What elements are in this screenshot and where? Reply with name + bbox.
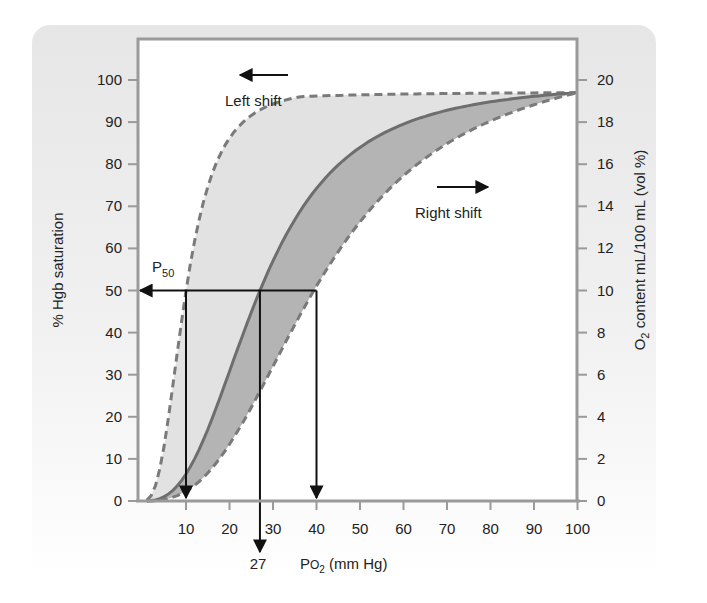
y-right-tick-label: 14 [597, 197, 614, 214]
x-tick-label: 100 [565, 520, 590, 537]
x-tick-label: 90 [526, 520, 543, 537]
y-right-tick-label: 0 [597, 492, 605, 509]
oxyhemoglobin-dissociation-chart: 1020304050607080901000102030405060708090… [0, 0, 707, 603]
y-right-tick-label: 2 [597, 450, 605, 467]
y-left-tick-label: 30 [105, 366, 122, 383]
y-right-tick-label: 20 [597, 71, 614, 88]
chart-figure: 1020304050607080901000102030405060708090… [0, 0, 707, 603]
y-right-tick-label: 18 [597, 113, 614, 130]
x-tick-label: 60 [395, 520, 412, 537]
x-tick-label: 50 [352, 520, 369, 537]
y-left-tick-label: 40 [105, 324, 122, 341]
right-shift-label: Right shift [415, 204, 483, 221]
x-tick-label: 20 [221, 520, 238, 537]
y-right-tick-label: 16 [597, 155, 614, 172]
y-axis-left-label: % Hgb saturation [49, 212, 66, 327]
y-right-tick-label: 6 [597, 366, 605, 383]
y-left-tick-label: 100 [97, 71, 122, 88]
y-left-tick-label: 70 [105, 197, 122, 214]
y-left-tick-label: 80 [105, 155, 122, 172]
p50-normal-value: 27 [250, 555, 267, 572]
x-tick-label: 40 [308, 520, 325, 537]
y-right-tick-label: 12 [597, 239, 614, 256]
y-right-tick-label: 4 [597, 408, 605, 425]
x-tick-label: 30 [265, 520, 282, 537]
y-left-tick-label: 60 [105, 239, 122, 256]
y-left-tick-label: 10 [105, 450, 122, 467]
y-left-tick-label: 0 [114, 492, 122, 509]
x-tick-label: 70 [439, 520, 456, 537]
y-right-tick-label: 10 [597, 282, 614, 299]
y-left-tick-label: 50 [105, 282, 122, 299]
y-right-tick-label: 8 [597, 324, 605, 341]
y-left-tick-label: 90 [105, 113, 122, 130]
left-shift-label: Left shift [225, 92, 283, 109]
y-left-tick-label: 20 [105, 408, 122, 425]
x-tick-label: 10 [178, 520, 195, 537]
x-tick-label: 80 [482, 520, 499, 537]
